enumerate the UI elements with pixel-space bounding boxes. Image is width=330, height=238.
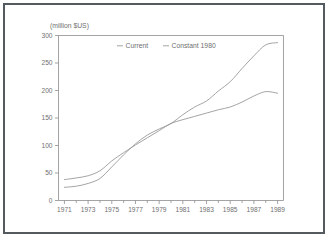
- y-axis-tick-label: 300: [41, 32, 52, 39]
- y-axis-tick-label: 100: [41, 142, 52, 149]
- legend-label-current: Current: [126, 42, 149, 49]
- legend-label-constant-1980: Constant 1980: [172, 42, 216, 49]
- chart-canvas: 050100150200250300 197119731975197719791…: [0, 0, 330, 238]
- y-axis-tick-label: 50: [45, 169, 53, 176]
- x-axis-tick-label: 1973: [81, 206, 96, 213]
- y-axis-tick-label: 250: [41, 59, 52, 66]
- y-axis-tick-label: 200: [41, 87, 52, 94]
- series-line-current: [64, 43, 277, 188]
- x-axis-tick-label: 1985: [223, 206, 238, 213]
- chart-ticks: [55, 36, 278, 205]
- x-axis-tick-label: 1989: [270, 206, 285, 213]
- chart-legend: CurrentConstant 1980: [117, 42, 216, 49]
- line-chart: 050100150200250300 197119731975197719791…: [0, 0, 330, 238]
- x-axis-tick-label: 1983: [199, 206, 214, 213]
- x-axis-tick-label: 1975: [104, 206, 119, 213]
- y-axis-tick-label: 150: [41, 114, 52, 121]
- y-axis-tick-labels: 050100150200250300: [41, 32, 52, 204]
- x-axis-tick-label: 1979: [152, 206, 167, 213]
- series-line-constant-1980: [64, 92, 277, 180]
- x-axis-tick-label: 1981: [176, 206, 191, 213]
- x-axis-tick-label: 1977: [128, 206, 143, 213]
- y-axis-title: (million $US): [50, 22, 89, 30]
- x-axis-tick-labels: 1971197319751977197919811983198519871989: [57, 206, 285, 213]
- screenshot-frame: 050100150200250300 197119731975197719791…: [0, 0, 330, 238]
- x-axis-tick-label: 1987: [247, 206, 262, 213]
- y-axis-tick-label: 0: [49, 197, 53, 204]
- x-axis-tick-label: 1971: [57, 206, 72, 213]
- chart-series-lines: [64, 43, 277, 188]
